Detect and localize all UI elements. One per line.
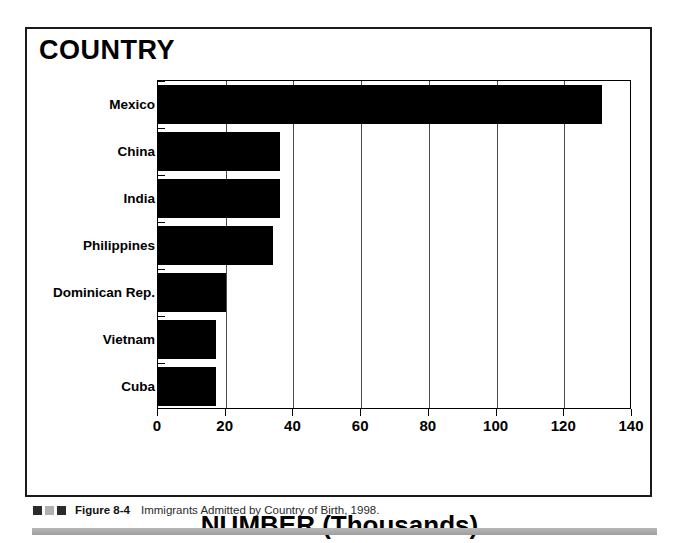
x-tick-label: 0 [153, 417, 161, 434]
bar [158, 226, 273, 265]
bottom-rule [32, 528, 657, 535]
category-tick [158, 175, 165, 176]
x-tick-label: 80 [420, 417, 437, 434]
gridline [564, 81, 565, 408]
bar [158, 179, 280, 218]
category-label: Mexico [27, 96, 155, 111]
caption-description: Immigrants Admitted by Country of Birth,… [141, 504, 379, 516]
x-tick-label: 100 [483, 417, 508, 434]
category-tick [158, 128, 165, 129]
caption-swatch-icon [33, 506, 42, 515]
figure-root: COUNTRY MexicoChinaIndiaPhilippinesDomin… [0, 0, 676, 543]
x-tick [428, 409, 429, 416]
bar [158, 367, 216, 406]
x-tick [360, 409, 361, 416]
bar [158, 273, 226, 312]
category-axis-labels: MexicoChinaIndiaPhilippinesDominican Rep… [27, 80, 155, 409]
caption-figure-number: Figure 8-4 [75, 504, 130, 516]
gridline [429, 81, 430, 408]
gridline [497, 81, 498, 408]
category-tick [158, 363, 165, 364]
category-label: China [27, 143, 155, 158]
y-axis-title: COUNTRY [39, 35, 175, 66]
category-tick [158, 222, 165, 223]
figure-caption: Figure 8-4 Immigrants Admitted by Countr… [33, 504, 379, 516]
category-label: Philippines [27, 237, 155, 252]
category-label: Cuba [27, 378, 155, 393]
plot-area [157, 80, 631, 409]
category-label: Vietnam [27, 331, 155, 346]
category-tick [158, 316, 165, 317]
category-label: India [27, 190, 155, 205]
x-tick [157, 409, 158, 416]
plot-wrapper: MexicoChinaIndiaPhilippinesDominican Rep… [27, 80, 652, 440]
x-tick [563, 409, 564, 416]
x-tick-label: 140 [618, 417, 643, 434]
x-tick [496, 409, 497, 416]
caption-swatches [33, 506, 66, 515]
x-tick [292, 409, 293, 416]
x-tick [225, 409, 226, 416]
caption-swatch-icon [45, 506, 54, 515]
bar [158, 85, 602, 124]
category-tick [158, 81, 165, 82]
x-tick-label: 120 [551, 417, 576, 434]
chart-frame: COUNTRY MexicoChinaIndiaPhilippinesDomin… [25, 27, 652, 497]
bar [158, 320, 216, 359]
x-tick-label: 60 [352, 417, 369, 434]
x-tick-label: 20 [216, 417, 233, 434]
gridline [293, 81, 294, 408]
gridline [361, 81, 362, 408]
category-tick [158, 269, 165, 270]
bar [158, 132, 280, 171]
x-tick [631, 409, 632, 416]
category-label: Dominican Rep. [27, 284, 155, 299]
caption-swatch-icon [57, 506, 66, 515]
x-tick-label: 40 [284, 417, 301, 434]
